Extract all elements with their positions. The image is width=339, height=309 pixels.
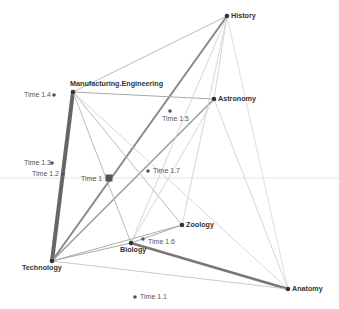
node-label-t11: Time 1.1 (140, 293, 167, 301)
node-t1-marker (106, 175, 113, 182)
nodes-group (50, 14, 291, 299)
node-t15-marker (168, 109, 172, 113)
node-label-history: History (231, 12, 256, 20)
node-t12-marker (61, 172, 65, 176)
node-label-zoology: Zoology (186, 221, 214, 229)
node-label-biology: Biology (120, 246, 146, 254)
node-label-t14: Time 1.4 (24, 91, 51, 99)
node-label-astronomy: Astronomy (218, 95, 256, 103)
node-t17-marker (146, 169, 150, 173)
edge-technology-astronomy (52, 99, 214, 261)
node-label-anatomy: Anatomy (292, 285, 323, 293)
node-history-marker (225, 14, 230, 19)
edge-history-anatomy (227, 16, 288, 289)
node-label-t12: Time 1.2 (32, 170, 59, 178)
edge-biology-anatomy (131, 243, 288, 289)
edges-group (52, 16, 288, 289)
node-anatomy-marker (286, 287, 291, 292)
node-t14-marker (52, 93, 56, 97)
node-label-t13: Time 1.3 (24, 159, 51, 167)
edge-history-astronomy (214, 16, 227, 99)
edge-technology-anatomy (52, 261, 288, 289)
node-label-manufacturing: Manufacturing.Engineering (70, 80, 163, 88)
edge-astronomy-anatomy (214, 99, 288, 289)
node-zoology-marker (180, 223, 185, 228)
node-label-t1: Time 1 (81, 175, 102, 183)
node-manufacturing-marker (71, 90, 76, 95)
edge-manufacturing-astronomy (73, 92, 214, 99)
node-astronomy-marker (212, 97, 217, 102)
node-label-t16: Time 1.6 (148, 238, 175, 246)
node-label-technology: Technology (22, 264, 62, 272)
node-t11-marker (133, 295, 137, 299)
edge-manufacturing-zoology (73, 92, 182, 225)
node-t16-marker (141, 237, 145, 241)
node-label-t15: Time 1.5 (162, 115, 189, 123)
node-label-t17: Time 1.7 (153, 167, 180, 175)
